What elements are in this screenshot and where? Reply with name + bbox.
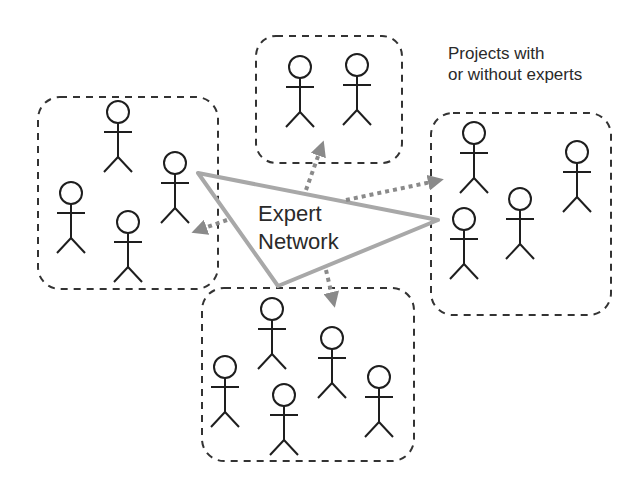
person-icon	[460, 122, 488, 193]
person-icon	[104, 101, 132, 172]
person-icon	[506, 188, 534, 259]
person-icon	[365, 366, 393, 437]
person-icon	[161, 152, 189, 223]
caption-line-2: or without experts	[448, 64, 582, 85]
person-icon	[114, 211, 142, 282]
person-icon	[211, 356, 239, 427]
arrow-to-left-group	[199, 220, 227, 230]
arrow-to-top-group	[306, 148, 321, 190]
person-icon	[286, 56, 314, 127]
center-label-line-2: Network	[258, 228, 339, 256]
person-icon	[343, 54, 371, 125]
person-icon	[318, 327, 346, 398]
person-icon	[450, 208, 478, 279]
center-label-line-1: Expert	[258, 200, 339, 228]
person-icon	[258, 298, 286, 369]
arrow-to-right-group	[346, 181, 436, 200]
arrow-to-bottom-group	[326, 270, 333, 300]
person-icon	[270, 384, 298, 455]
top-group-box	[256, 36, 402, 163]
caption-line-1: Projects with	[448, 43, 582, 64]
person-icon	[563, 141, 591, 212]
expert-network-label: Expert Network	[258, 200, 339, 256]
projects-caption: Projects with or without experts	[448, 43, 582, 85]
person-icon	[57, 182, 85, 253]
